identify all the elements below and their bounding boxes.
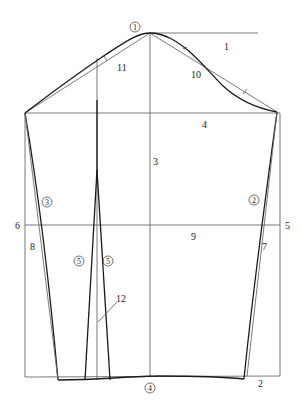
label-7: 7 (262, 241, 267, 252)
circled-label-2: 2 (249, 195, 259, 205)
label-3: 3 (153, 156, 158, 167)
svg-text:3: 3 (45, 198, 49, 207)
label-2: 2 (258, 378, 263, 389)
label-9: 9 (191, 231, 196, 242)
label-12-leader (98, 302, 117, 322)
circled-label-5-right: 5 (103, 256, 113, 266)
back-cap-chord (150, 33, 277, 112)
svg-text:4: 4 (148, 384, 152, 393)
circled-label-1: 1 (130, 22, 140, 32)
sleeve-pattern-diagram: 1 2 3 4 5 6 7 8 9 10 11 12 1 2 3 4 5 (0, 0, 300, 411)
dart-leg-right (97, 170, 110, 380)
dart-leg-left (85, 170, 97, 380)
sleeve-outline (25, 33, 277, 380)
label-6: 6 (15, 220, 20, 231)
circled-label-4: 4 (145, 383, 155, 393)
circled-label-5-left: 5 (74, 256, 84, 266)
label-4: 4 (202, 119, 207, 130)
svg-text:2: 2 (252, 196, 256, 205)
cap-tick (104, 56, 107, 61)
svg-text:5: 5 (77, 257, 81, 266)
circled-labels: 1 2 3 4 5 5 (42, 22, 259, 393)
label-12: 12 (116, 293, 126, 304)
label-5: 5 (285, 220, 290, 231)
label-1: 1 (224, 41, 229, 52)
sleeve-cap-curve (25, 33, 277, 113)
label-11: 11 (117, 62, 127, 73)
label-10: 10 (191, 69, 201, 80)
svg-text:5: 5 (106, 257, 110, 266)
circled-label-3: 3 (42, 197, 52, 207)
label-8: 8 (30, 241, 35, 252)
svg-text:1: 1 (133, 23, 137, 32)
front-cap-chord (25, 33, 150, 113)
